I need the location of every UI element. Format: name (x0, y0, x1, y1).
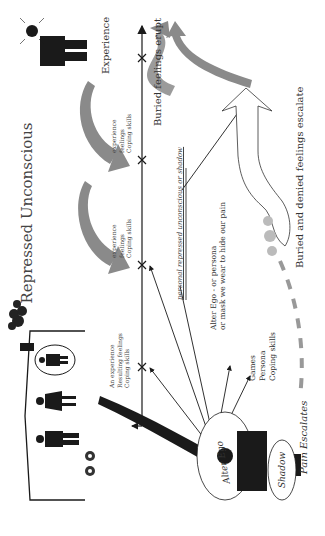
shadow-label: Shadow (277, 452, 287, 488)
stage-1-line-1: An experience (108, 333, 116, 388)
coping-item-persona: Persona (258, 332, 268, 381)
alter-ego-description: Alter Ego - or persona or mask we wear t… (210, 202, 227, 330)
timeline-stage-3: experience feelings Coping skills (110, 114, 133, 153)
coping-item-coping-skills: Coping skills (268, 332, 278, 381)
timeline-stage-1: An experience Resulting feelings Coping … (108, 333, 131, 388)
wheels-icon (85, 451, 95, 476)
tree-icon (8, 300, 27, 330)
stage-1-line-2: Resulting feelings (116, 333, 124, 388)
timeline-stage-2: experience feelings Coping skills (110, 219, 133, 258)
experience-figure-icon (20, 18, 87, 66)
stage-1-line-3: Coping skills (123, 333, 131, 388)
house-icon (8, 300, 95, 500)
erupt-curved-arrow (166, 21, 252, 88)
coping-item-games: Games (248, 332, 258, 381)
buried-denied-escalate-label: Buried and denied feelings escalate (294, 87, 306, 269)
personal-repressed-label: personal repressed unconscious or shadow (176, 147, 185, 300)
experience-label: Experience (100, 17, 112, 74)
stage-2-line-1: experience (110, 219, 118, 258)
stage-3-line-2: feelings (118, 114, 126, 153)
stage-3-line-1: experience (110, 114, 118, 153)
stage-3-line-3: Coping skills (125, 114, 133, 153)
pain-escalates-label: Pain Escalates (298, 401, 310, 474)
stage-2-line-2: feelings (118, 219, 126, 258)
diagram-canvas: Repressed Unconscious Experience Buried … (0, 0, 325, 536)
buried-feelings-erupt-label: Buried feelings erupt (152, 18, 164, 126)
coping-list: Games Persona Coping skills (248, 332, 277, 381)
diagram-title: Repressed Unconscious (19, 122, 36, 303)
alter-ego-description-line2: or mask we wear to hide our pain (219, 202, 228, 330)
stage-2-line-3: Coping skills (125, 219, 133, 258)
radiating-arrows (150, 96, 250, 446)
